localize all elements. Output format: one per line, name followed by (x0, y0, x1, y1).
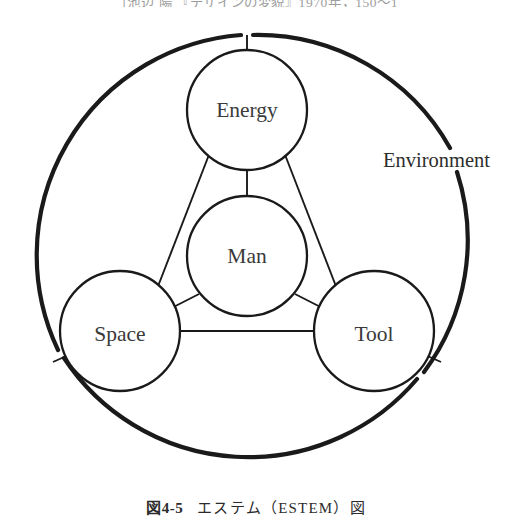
estem-diagram: Energy Man Space Tool Environment (0, 0, 512, 500)
figure-caption: 図4-5エステム（ESTEM）図 (0, 496, 512, 517)
edge-tool-man (295, 294, 320, 307)
node-label-space: Space (94, 322, 145, 346)
edge-space-man (175, 294, 200, 307)
node-label-man: Man (227, 244, 267, 268)
node-label-tool: Tool (354, 322, 393, 346)
environment-ring-label: Environment (383, 149, 490, 171)
figure-caption-number: 図4-5 (146, 500, 183, 516)
figure-page: 〔池辺 陽 『デザインの変貌』1970年，150〜1 (0, 0, 512, 525)
node-label-energy: Energy (216, 98, 278, 122)
figure-caption-title: エステム（ESTEM）図 (197, 500, 366, 516)
